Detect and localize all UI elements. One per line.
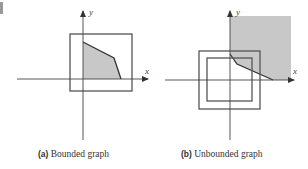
caption-b: (b) Unbounded graph	[181, 149, 263, 159]
x-axis-label: x	[144, 66, 149, 76]
panel-a-bounded-graph: x y	[17, 7, 149, 140]
caption-tag: (b)	[181, 149, 192, 159]
caption-text: Bounded graph	[51, 149, 109, 159]
caption-text: Unbounded graph	[194, 149, 262, 159]
y-axis-label: y	[88, 7, 93, 17]
caption-tag: (a)	[38, 149, 48, 159]
caption-a: (a) Bounded graph	[38, 149, 109, 159]
panel-b-unbounded-graph: x y	[165, 7, 297, 140]
x-axis-label: x	[292, 66, 297, 76]
y-axis-label: y	[235, 7, 240, 17]
figure: x y x y	[0, 0, 308, 169]
